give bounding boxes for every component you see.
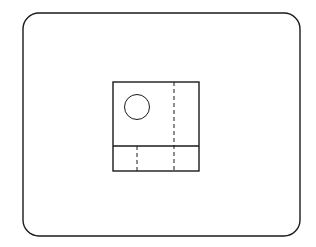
outer-frame: [23, 13, 300, 236]
hole-circle: [125, 95, 150, 120]
technical-drawing: [0, 0, 316, 247]
part-outline: [113, 82, 199, 171]
